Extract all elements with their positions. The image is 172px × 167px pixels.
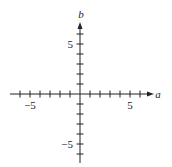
a-tick-label-pos5: 5 — [127, 99, 133, 111]
a-tick-label-neg5: −5 — [24, 99, 36, 111]
coordinate-plane: −5 5 5 −5 a b — [0, 0, 172, 167]
b-axis-arrow-icon — [78, 22, 83, 29]
b-tick-label-neg5: −5 — [61, 138, 73, 150]
b-tick-label-pos5: 5 — [68, 38, 74, 50]
a-axis-label: a — [155, 88, 161, 100]
a-axis-arrow-icon — [147, 92, 154, 97]
b-axis-label: b — [78, 8, 84, 20]
